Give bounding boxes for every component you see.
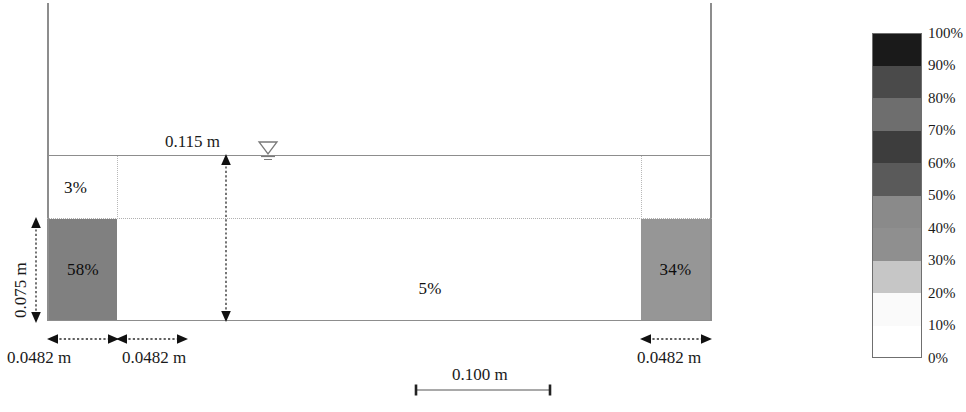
colorbar-band-90-100	[872, 33, 922, 66]
scale-bar-label: 0.100 m	[452, 366, 508, 383]
water-depth-label: 0.115 m	[165, 133, 220, 150]
colorbar-band-10-20	[872, 293, 922, 326]
colorbar-tick-60: 60%	[928, 156, 956, 171]
water-level-triangle-icon	[255, 138, 281, 162]
central-zone: 5%	[260, 270, 600, 306]
left-gap-width-label: 0.0482 m	[122, 349, 186, 366]
colorbar-tick-80: 80%	[928, 91, 956, 106]
sediment-top-guideline	[47, 218, 712, 219]
right-block-left-guideline	[641, 156, 642, 219]
colorbar-tick-90: 90%	[928, 58, 956, 73]
left-block-width-arrow	[45, 331, 121, 347]
colorbar-band-40-50	[872, 196, 922, 229]
channel-bed-line	[47, 320, 712, 321]
colorbar	[872, 33, 922, 358]
colorbar-tick-70: 70%	[928, 123, 956, 138]
upper-left-zone: 3%	[49, 156, 132, 218]
left-gap-width-arrow	[114, 331, 190, 347]
colorbar-tick-0: 0%	[928, 351, 948, 366]
colorbar-band-30-40	[872, 228, 922, 261]
lower-right-zone: 34%	[641, 219, 710, 320]
left-block-width-label: 0.0482 m	[7, 349, 71, 366]
upper-left-zone-label: 3%	[64, 179, 87, 196]
colorbar-tick-40: 40%	[928, 221, 956, 236]
colorbar-tick-10: 10%	[928, 318, 956, 333]
colorbar-band-0-10	[872, 326, 922, 359]
right-wall	[710, 3, 712, 321]
left-block-right-guideline	[117, 156, 118, 219]
sediment-depth-dimension-arrow	[27, 215, 45, 325]
colorbar-band-50-60	[872, 163, 922, 196]
colorbar-tick-20: 20%	[928, 286, 956, 301]
colorbar-tick-100: 100%	[928, 26, 963, 41]
scale-bar	[412, 383, 554, 397]
right-block-width-arrow	[638, 331, 714, 347]
right-block-width-label: 0.0482 m	[637, 349, 701, 366]
figure-canvas: 58% 34% 3% 5% 0.115 m 0.075 m	[0, 0, 966, 412]
colorbar-band-20-30	[872, 261, 922, 294]
colorbar-band-60-70	[872, 131, 922, 164]
lower-left-zone-label: 58%	[67, 261, 99, 278]
water-depth-dimension-arrow	[217, 152, 235, 324]
water-surface-line	[47, 155, 712, 156]
central-zone-label: 5%	[418, 280, 441, 297]
colorbar-tick-30: 30%	[928, 253, 956, 268]
colorbar-tick-50: 50%	[928, 188, 956, 203]
colorbar-band-70-80	[872, 98, 922, 131]
colorbar-band-80-90	[872, 66, 922, 99]
lower-left-zone: 58%	[49, 219, 117, 320]
lower-right-zone-label: 34%	[660, 261, 692, 278]
